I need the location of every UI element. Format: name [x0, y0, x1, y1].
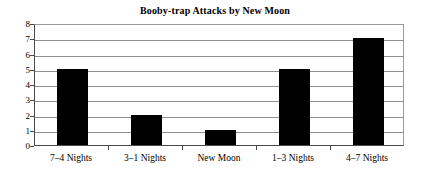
y-axis-tick-label: 5	[4, 66, 30, 75]
gridline	[35, 40, 403, 41]
bar	[353, 38, 384, 145]
y-axis-labels: 012345678	[0, 24, 30, 146]
bar	[57, 69, 88, 145]
x-axis-tick-marks	[34, 146, 404, 151]
plot-area	[34, 24, 404, 146]
x-axis-tick-mark	[330, 146, 331, 150]
bar	[131, 115, 162, 146]
x-axis-tick-label: 3–1 Nights	[108, 152, 182, 164]
y-axis-tick-label: 1	[4, 127, 30, 136]
gridline	[35, 86, 403, 87]
gridline	[35, 56, 403, 57]
y-axis-tick-label: 6	[4, 51, 30, 60]
x-axis-tick-mark	[108, 146, 109, 150]
y-axis-tick-label: 8	[4, 20, 30, 29]
x-axis-tick-label: 1–3 Nights	[256, 152, 330, 164]
gridline	[35, 101, 403, 102]
x-axis-tick-mark	[256, 146, 257, 150]
chart-title: Booby-trap Attacks by New Moon	[0, 5, 430, 17]
x-axis-tick-label: 4–7 Nights	[330, 152, 404, 164]
y-axis-tick-label: 0	[4, 142, 30, 151]
gridline	[35, 117, 403, 118]
bar	[279, 69, 310, 145]
y-axis-tick-label: 2	[4, 112, 30, 121]
gridline	[35, 71, 403, 72]
bar	[205, 130, 236, 145]
x-axis-tick-mark	[182, 146, 183, 150]
y-axis-tick-label: 3	[4, 96, 30, 105]
y-axis-tick-label: 7	[4, 35, 30, 44]
bar-chart-figure: Booby-trap Attacks by New Moon 012345678…	[0, 0, 430, 174]
y-axis-tick-label: 4	[4, 81, 30, 90]
x-axis-tick-label: New Moon	[182, 152, 256, 164]
x-axis-tick-label: 7–4 Nights	[34, 152, 108, 164]
x-axis-labels: 7–4 Nights3–1 NightsNew Moon1–3 Nights4–…	[34, 152, 404, 168]
